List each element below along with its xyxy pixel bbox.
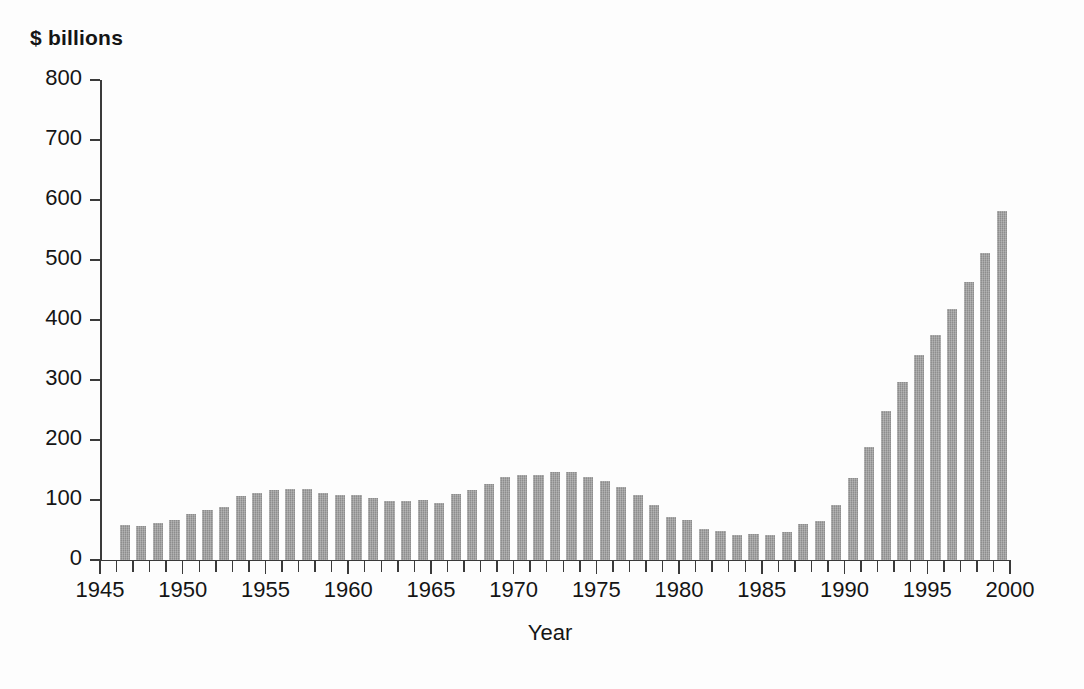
bar: [600, 481, 610, 560]
x-axis-major-tick: [1009, 561, 1010, 574]
bar: [335, 495, 345, 560]
bar: [219, 507, 229, 560]
y-axis-tick: [90, 199, 100, 201]
x-axis-major-tick: [99, 561, 100, 574]
y-axis-tick-label-wrap: 800: [8, 67, 82, 89]
x-axis-major-tick: [596, 561, 597, 574]
y-axis-tick-label-wrap: 400: [8, 307, 82, 329]
x-axis-minor-tick: [314, 561, 315, 572]
x-axis-minor-tick: [546, 561, 547, 572]
bar: [947, 309, 957, 560]
x-axis-minor-tick: [381, 561, 382, 572]
x-axis-minor-tick: [199, 561, 200, 572]
bar: [748, 534, 758, 560]
bar: [897, 382, 907, 560]
x-axis-minor-tick: [778, 561, 779, 572]
x-axis-minor-tick: [943, 561, 944, 572]
y-axis-tick-label-wrap: 300: [8, 367, 82, 389]
bar: [649, 505, 659, 560]
x-axis-minor-tick: [132, 561, 133, 572]
bar: [765, 535, 775, 560]
bar: [699, 529, 709, 560]
y-axis-tick-label-wrap: 200: [8, 427, 82, 449]
x-axis-tick-label: 2000: [960, 578, 1060, 602]
bar: [682, 520, 692, 560]
bar: [831, 505, 841, 560]
x-axis-minor-tick: [695, 561, 696, 572]
y-axis-tick-label-wrap: 0: [8, 547, 82, 569]
x-axis-major-tick: [678, 561, 679, 574]
x-axis-minor-tick: [745, 561, 746, 572]
x-axis-minor-tick: [612, 561, 613, 572]
bar: [484, 484, 494, 560]
x-axis-minor-tick: [976, 561, 977, 572]
bar: [401, 501, 411, 560]
y-axis-tick-label: 0: [12, 547, 82, 569]
bar: [550, 472, 560, 560]
bar: [500, 477, 510, 560]
bar: [732, 535, 742, 560]
bar: [815, 521, 825, 560]
y-axis-tick-label-wrap: 600: [8, 187, 82, 209]
x-axis-minor-tick: [248, 561, 249, 572]
x-axis-minor-tick: [298, 561, 299, 572]
bar: [997, 211, 1007, 560]
bar: [980, 253, 990, 560]
bar: [633, 495, 643, 560]
bar: [351, 495, 361, 560]
x-axis-major-tick: [513, 561, 514, 574]
x-axis-minor-tick: [331, 561, 332, 572]
x-axis-minor-tick: [877, 561, 878, 572]
bar: [864, 447, 874, 560]
bar: [930, 335, 940, 560]
y-axis-tick-label: 300: [12, 367, 82, 389]
x-axis-major-tick: [265, 561, 266, 574]
x-axis-minor-tick: [447, 561, 448, 572]
x-axis-major-tick: [761, 561, 762, 574]
x-axis-minor-tick: [993, 561, 994, 572]
bar: [517, 475, 527, 560]
y-axis-tick: [90, 499, 100, 501]
bar: [285, 489, 295, 560]
x-axis-title-text: Year: [528, 620, 572, 645]
y-axis-tick: [90, 79, 100, 81]
bar: [418, 500, 428, 560]
y-axis-tick-label: 400: [12, 307, 82, 329]
y-axis-tick-label-wrap: 700: [8, 127, 82, 149]
y-axis-tick-label: 500: [12, 247, 82, 269]
y-axis-tick-label-wrap: 100: [8, 487, 82, 509]
x-axis-minor-tick: [397, 561, 398, 572]
x-axis-minor-tick: [794, 561, 795, 572]
y-axis-tick: [90, 319, 100, 321]
bar: [318, 493, 328, 560]
y-axis-line: [100, 80, 102, 561]
bar-chart: $ billions 0100200300400500600700800 194…: [0, 0, 1084, 689]
bar: [384, 501, 394, 560]
bar: [236, 496, 246, 560]
bar: [715, 531, 725, 560]
y-axis-tick-label: 200: [12, 427, 82, 449]
bar: [202, 510, 212, 560]
x-axis-minor-tick: [215, 561, 216, 572]
bar: [368, 498, 378, 560]
x-axis-minor-tick: [149, 561, 150, 572]
x-axis-minor-tick: [860, 561, 861, 572]
x-axis-title: Year: [0, 620, 1084, 646]
y-axis-tick-label: 100: [12, 487, 82, 509]
bar: [533, 475, 543, 560]
x-axis-minor-tick: [960, 561, 961, 572]
x-axis-major-tick: [430, 561, 431, 574]
x-axis-major-tick: [347, 561, 348, 574]
bar: [153, 523, 163, 560]
x-axis-minor-tick: [910, 561, 911, 572]
bar: [120, 525, 130, 560]
bar: [269, 490, 279, 560]
x-axis-major-tick: [844, 561, 845, 574]
x-axis-minor-tick: [281, 561, 282, 572]
x-axis-minor-tick: [496, 561, 497, 572]
bar: [467, 490, 477, 560]
bar: [302, 489, 312, 560]
bar: [566, 472, 576, 560]
y-axis-tick-label: 600: [12, 187, 82, 209]
y-axis-tick-label: 800: [12, 67, 82, 89]
